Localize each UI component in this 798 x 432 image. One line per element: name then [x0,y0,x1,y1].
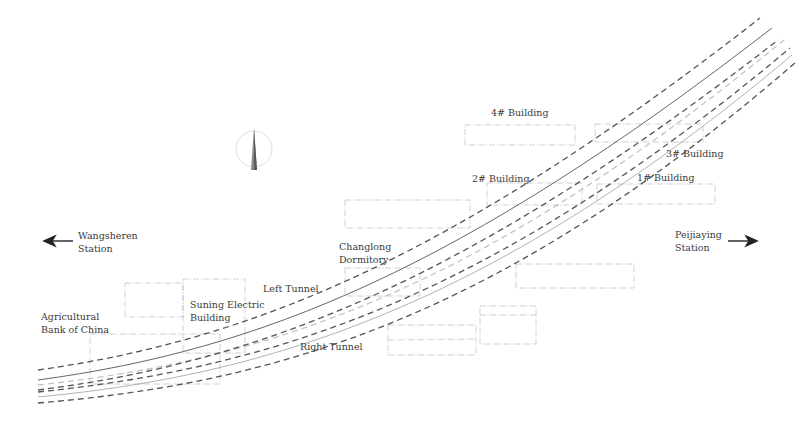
left-tunnel-outer-edge [38,18,760,370]
label-suning-building: Suning Electric Building [190,299,265,324]
label-building-1: 1# Building [637,172,695,185]
building-outline-changlong-top [345,200,470,228]
right-tunnel-centerline [38,55,792,397]
arrow-left-icon [44,236,73,246]
site-plan-diagram: Wangsheren Station Peijiaying Station Ag… [0,0,798,432]
building-outline-2 [487,183,582,205]
right-tunnel-edge-a [38,48,790,392]
building-outline-agri-bank [125,283,183,317]
building-outline-south-b [480,306,536,344]
label-building-4: 4# Building [491,107,549,120]
label-building-3: 3# Building [666,148,724,161]
label-changlong-dormitory: Changlong Dormitory [339,241,391,266]
building-outline-changlong-bottom [345,268,420,296]
arrow-right-icon [728,236,757,246]
tunnel-drawing [0,0,798,432]
building-outline-4 [465,125,575,145]
building-outline-east [516,264,634,288]
building-outline-3 [595,124,703,142]
label-building-2: 2# Building [472,173,530,186]
building-outline-1 [597,184,715,204]
label-peijiaying-station: Peijiaying Station [675,229,722,254]
label-right-tunnel: Right Tunnel [300,341,363,354]
label-wangsheren-station: Wangsheren Station [78,230,138,255]
north-arrow-icon [236,128,272,170]
label-left-tunnel: Left Tunnel [263,283,319,296]
label-agricultural-bank: Agricultural Bank of China [41,311,109,336]
left-tunnel-inner-edge [38,40,778,390]
right-tunnel-outer-edge [38,40,784,385]
